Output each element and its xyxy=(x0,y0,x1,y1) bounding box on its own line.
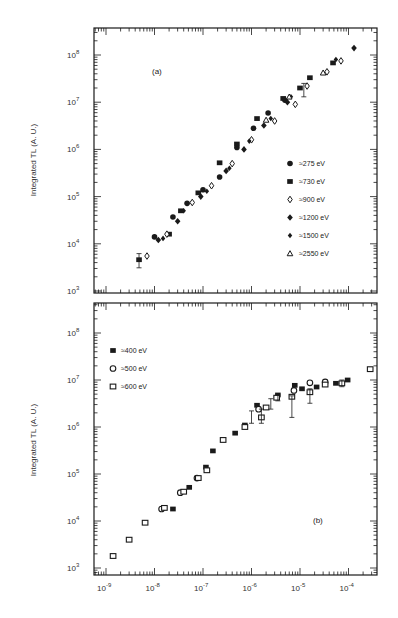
filled-circle-marker xyxy=(152,234,158,240)
open-circle-marker xyxy=(307,380,313,386)
panel-b-data-points xyxy=(110,367,373,559)
panel-a-y-tick-labels: 108107106105104103 xyxy=(67,49,80,296)
panel-a-legend: ≈275 eV≈730 eV≈900 eV≈1200 eV≈1500 eV≈25… xyxy=(287,160,329,257)
open-square-marker xyxy=(110,554,116,559)
filled-diamond-marker xyxy=(261,122,267,129)
y-tick-label: 108 xyxy=(67,49,80,60)
legend-label: ≈275 eV xyxy=(299,160,325,167)
filled-circle-marker xyxy=(251,125,257,131)
filled-square-marker xyxy=(299,386,305,391)
open-square-marker xyxy=(242,425,248,430)
figure: 108107106105104103 Integrated TL (A. U.)… xyxy=(0,0,398,618)
legend-label: ≈600 eV xyxy=(121,383,147,390)
open-square-marker xyxy=(181,489,187,494)
filled-square-marker xyxy=(210,449,216,454)
open-diamond-marker xyxy=(209,182,213,189)
open-square-marker xyxy=(162,506,168,511)
open-square-marker xyxy=(274,395,280,400)
x-tick-label: 10-5 xyxy=(291,582,306,593)
panel-a-ticks xyxy=(94,28,377,293)
open-circle-marker xyxy=(291,388,297,394)
legend-label: ≈1500 eV xyxy=(299,232,329,239)
open-square-marker xyxy=(220,438,226,443)
y-tick-label: 103 xyxy=(67,285,80,296)
open-square-marker xyxy=(110,384,116,389)
open-diamond-marker xyxy=(190,199,194,206)
panel-a-y-axis-title: Integrated TL (A. U.) xyxy=(29,123,38,196)
panel-b-y-axis-title: Integrated TL (A. U.) xyxy=(29,403,38,476)
panel-b: 108107106105104103 Integrated TL (A. U.)… xyxy=(29,303,377,575)
open-circle-marker xyxy=(110,366,116,372)
legend-label: ≈2550 eV xyxy=(299,250,329,257)
x-tick-label: 10-8 xyxy=(146,582,161,593)
filled-square-marker xyxy=(232,431,238,436)
legend-label: ≈1200 eV xyxy=(299,214,329,221)
legend-item: ≈1500 eV xyxy=(288,232,329,239)
filled-diamond-marker xyxy=(175,218,181,225)
filled-square-marker xyxy=(254,116,260,121)
filled-diamond-marker xyxy=(241,146,247,153)
legend-item: ≈500 eV xyxy=(110,365,147,372)
legend-item: ≈1200 eV xyxy=(287,214,329,221)
y-tick-label: 107 xyxy=(67,96,80,107)
open-square-marker xyxy=(142,520,148,525)
y-tick-label: 105 xyxy=(67,468,80,479)
open-square-marker xyxy=(204,468,210,473)
legend-item: ≈730 eV xyxy=(287,178,325,185)
legend-item: ≈400 eV xyxy=(110,347,147,354)
panel-a-frame xyxy=(94,28,377,293)
legend-item: ≈2550 eV xyxy=(287,250,329,257)
open-square-marker xyxy=(322,382,328,387)
x-tick-label: 10-4 xyxy=(340,582,355,593)
open-square-marker xyxy=(367,367,373,372)
filled-square-marker xyxy=(314,385,320,390)
y-tick-label: 107 xyxy=(67,374,80,385)
panel-a-label: (a) xyxy=(152,67,162,76)
panel-b-ticks xyxy=(94,303,377,575)
filled-square-marker xyxy=(217,160,223,165)
filled-diamond-small-marker xyxy=(288,233,292,239)
panel-b-frame xyxy=(94,303,377,575)
open-diamond-marker xyxy=(339,58,343,65)
filled-diamond-small-marker xyxy=(161,236,165,242)
filled-square-marker xyxy=(345,378,351,383)
filled-square-marker xyxy=(280,96,286,101)
filled-square-marker xyxy=(234,142,240,147)
legend-label: ≈400 eV xyxy=(121,347,147,354)
filled-circle-marker xyxy=(265,110,271,116)
x-tick-label: 10-6 xyxy=(243,582,258,593)
filled-square-marker xyxy=(307,75,313,80)
panel-b-label: (b) xyxy=(313,516,323,525)
legend-label: ≈730 eV xyxy=(299,178,325,185)
open-triangle-marker xyxy=(287,251,293,256)
y-tick-label: 104 xyxy=(67,238,80,249)
filled-square-marker xyxy=(297,86,303,91)
panel-a: 108107106105104103 Integrated TL (A. U.)… xyxy=(29,28,377,296)
open-square-marker xyxy=(195,476,201,481)
open-diamond-marker xyxy=(230,160,234,167)
filled-circle-marker xyxy=(184,201,190,207)
filled-square-marker xyxy=(170,507,176,512)
panel-b-legend: ≈400 eV≈500 eV≈600 eV xyxy=(110,347,147,390)
y-tick-label: 104 xyxy=(67,515,80,526)
filled-diamond-marker xyxy=(287,214,293,221)
open-diamond-marker xyxy=(288,196,292,203)
legend-label: ≈500 eV xyxy=(121,365,147,372)
x-axis-tick-labels: 10-910-810-710-610-510-4 xyxy=(97,582,354,593)
x-tick-label: 10-9 xyxy=(97,582,112,593)
open-square-marker xyxy=(263,405,269,410)
filled-square-marker xyxy=(292,383,298,388)
filled-square-marker xyxy=(110,348,116,353)
filled-circle-marker xyxy=(287,161,293,167)
legend-item: ≈600 eV xyxy=(110,383,147,390)
panel-b-y-tick-labels: 108107106105104103 xyxy=(67,327,80,573)
open-diamond-marker xyxy=(293,101,297,108)
open-square-marker xyxy=(126,537,132,542)
y-tick-label: 108 xyxy=(67,327,80,338)
filled-square-marker xyxy=(186,485,192,490)
legend-item: ≈275 eV xyxy=(287,160,325,167)
filled-square-marker xyxy=(333,381,339,386)
open-diamond-marker xyxy=(272,118,276,125)
y-tick-label: 105 xyxy=(67,191,80,202)
open-triangle-marker xyxy=(263,117,269,122)
